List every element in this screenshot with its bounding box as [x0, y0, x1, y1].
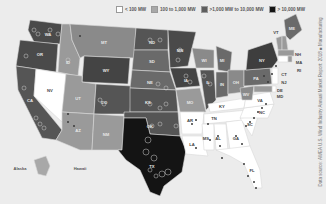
state-label-id: ID — [66, 60, 70, 65]
state-co — [94, 84, 132, 114]
legend-item-lt100: < 100 MW — [116, 6, 146, 13]
state-ma — [278, 50, 294, 56]
legend-swatch — [201, 6, 208, 13]
state-label-mi: MI — [220, 58, 225, 63]
state-label-tx: TX — [149, 164, 155, 169]
state-label-wa: WA — [45, 32, 52, 37]
state-label-ct: CT — [281, 72, 287, 77]
state-label-al: AL — [215, 136, 221, 141]
state-label-ks: KS — [145, 100, 151, 105]
state-label-sc: SC — [247, 122, 253, 127]
state-label-nd: ND — [149, 40, 155, 45]
state-nj — [272, 68, 278, 84]
state-label-nm: NM — [103, 132, 110, 137]
state-label-tn: TN — [211, 116, 217, 121]
state-ri — [288, 56, 292, 62]
state-label-ne: NE — [147, 80, 153, 85]
state-label-ri: RI — [297, 68, 301, 73]
state-label-oh: OH — [233, 80, 239, 85]
legend-item-gt10000: > 10,000 MW — [269, 6, 305, 13]
state-md — [254, 86, 272, 92]
state-vt — [276, 36, 282, 50]
data-source-note: Data source: AWEA U.S. Wind Industry Ann… — [315, 2, 325, 202]
state-label-nj: NJ — [281, 80, 287, 85]
state-nh — [282, 36, 288, 50]
state-label-wy: WY — [103, 68, 110, 73]
state-fl — [216, 146, 262, 188]
state-label-ny: NY — [259, 58, 265, 63]
state-label-ms: MS — [203, 136, 209, 141]
us-wind-capacity-map: WA OR CA NV ID MT WY UT AZ CO NM ND SD N… — [0, 14, 310, 204]
state-label-wv: WV — [243, 92, 250, 97]
legend-swatch — [116, 6, 123, 13]
state-label-me: ME — [289, 26, 295, 31]
map-legend: < 100 MW 100 to 1,000 MW >1,000 MW to 10… — [116, 6, 305, 13]
state-label-ar: AR — [187, 118, 193, 123]
state-label-az: AZ — [75, 128, 81, 133]
state-label-mt: MT — [101, 40, 107, 45]
state-label-co: CO — [101, 100, 108, 105]
legend-item-1000-10000: >1,000 MW to 10,000 MW — [201, 6, 264, 13]
legend-swatch — [151, 6, 158, 13]
state-label-ma: MA — [296, 60, 303, 65]
state-label-or: OR — [37, 52, 43, 57]
state-label-nc: NC — [259, 110, 265, 115]
state-label-pa: PA — [253, 76, 259, 81]
inset-label-hawaii: Hawaii — [74, 166, 87, 171]
state-label-ga: GA — [233, 136, 239, 141]
state-label-nv: NV — [47, 88, 53, 93]
state-label-vt: VT — [273, 30, 279, 35]
state-label-sd: SD — [149, 59, 155, 64]
state-label-il: IL — [206, 80, 210, 85]
state-label-va: VA — [257, 98, 263, 103]
legend-label: > 10,000 MW — [278, 7, 305, 12]
state-ct — [278, 56, 288, 62]
state-label-fl: FL — [249, 168, 255, 173]
legend-swatch — [269, 6, 276, 13]
state-label-ky: KY — [219, 104, 225, 109]
state-label-la: LA — [189, 142, 195, 147]
state-label-de: DE — [277, 88, 283, 93]
state-label-mo: MO — [187, 100, 194, 105]
state-label-ia: IA — [184, 78, 188, 83]
state-label-in: IN — [220, 82, 224, 87]
state-nd — [134, 28, 168, 50]
legend-item-100-1000: 100 to 1,000 MW — [151, 6, 196, 13]
state-ks — [130, 88, 178, 112]
state-label-md: MD — [277, 94, 284, 99]
legend-label: 100 to 1,000 MW — [160, 7, 196, 12]
inset-label-alaska: Alaska — [14, 166, 28, 171]
state-label-wi: WI — [201, 58, 206, 63]
state-label-nh: NH — [295, 52, 301, 57]
state-ne — [130, 70, 176, 90]
source-text: Data source: AWEA U.S. Wind Industry Ann… — [318, 17, 323, 186]
state-label-ok: OK — [147, 124, 153, 129]
state-label-ca: CA — [27, 98, 33, 103]
state-ny — [246, 42, 278, 70]
state-label-mn: MN — [177, 48, 184, 53]
legend-label: < 100 MW — [125, 7, 146, 12]
state-label-ut: UT — [75, 96, 81, 101]
legend-label: >1,000 MW to 10,000 MW — [210, 7, 264, 12]
state-de — [272, 86, 276, 92]
inset-alaska — [34, 156, 50, 176]
